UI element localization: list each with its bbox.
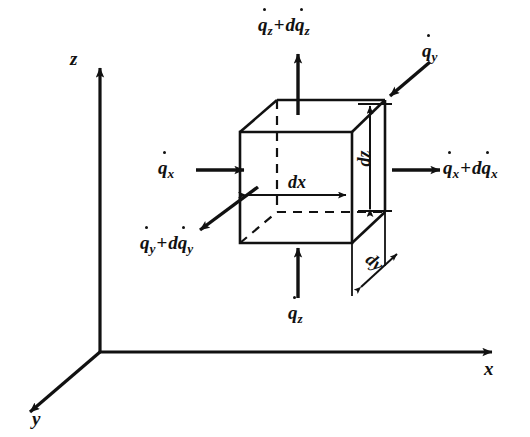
coordinate-axes <box>30 68 492 412</box>
axis-label-z: z <box>70 48 77 70</box>
dimension-label-dx: dx <box>288 172 306 193</box>
flux-arrows <box>196 54 440 298</box>
flux-label-right-qx-plus-dqx: qx+dqx <box>443 157 498 182</box>
flux-label-lower-left-qy-plus-dqy: qy+dqy <box>140 232 193 257</box>
dimension-label-dz: dz <box>354 150 375 166</box>
cube-hidden-edge-bottom-left-depth <box>240 212 277 243</box>
flux-label-bottom-qz: qz <box>288 302 303 327</box>
cube-edge-top-left-depth <box>240 100 277 132</box>
control-volume-cube <box>240 100 385 243</box>
flux-label-left-qx: qx <box>158 157 174 182</box>
cube-edge-bottom-right-depth <box>352 212 385 243</box>
heat-conduction-element-figure: z x y qz+dqz qy qx qx+dqx qy+dqy qz dx d… <box>0 0 530 437</box>
flux-label-top-qz-plus-dqz: qz+dqz <box>258 14 310 39</box>
axis-label-x: x <box>484 358 494 380</box>
flux-arrow-upper-right-qy-in <box>390 62 430 96</box>
flux-arrow-lower-left-qy-out <box>200 187 258 230</box>
axis-label-y: y <box>32 408 40 430</box>
flux-label-upper-right-qy: qy <box>422 40 437 65</box>
figure-canvas <box>0 0 530 437</box>
y-axis-line <box>30 352 100 412</box>
